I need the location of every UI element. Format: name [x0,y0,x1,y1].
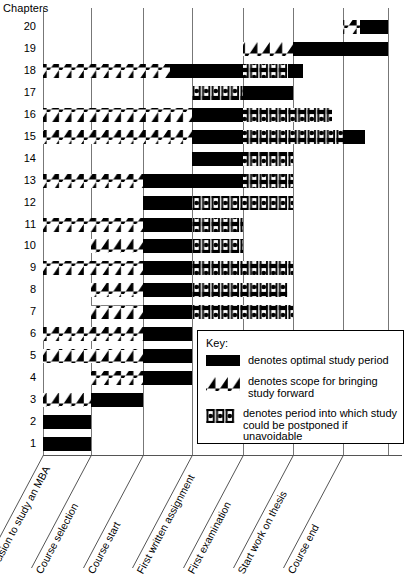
bar-segment-solid [143,349,192,363]
bar-segment-hatch [43,393,91,407]
bar-row [343,20,388,34]
milestone-leader-line [184,455,244,568]
bar-segment-hatch [43,327,143,341]
bar-row [91,283,288,297]
bar-segment-dot [243,64,288,78]
bar-segment-solid [143,371,192,385]
bar-segment-dot [192,86,243,100]
bar-row [192,152,293,166]
bar-segment-dot [192,196,293,210]
bar-row [43,174,293,188]
bar-segment-dot [243,130,343,144]
legend-swatch-dotted [206,409,235,423]
y-axis-tick-chapter-11: 11 [10,218,36,230]
bar-segment-dot [243,108,332,122]
bar-row [43,327,192,341]
y-axis-tick-chapter-1: 1 [10,437,36,449]
bar-segment-solid [293,42,388,56]
y-axis-tick-chapter-14: 14 [10,152,36,164]
y-axis-tick-chapter-12: 12 [10,196,36,208]
bar-segment-hatch [43,218,143,232]
bar-segment-solid [243,86,293,100]
bar-row [143,196,293,210]
bar-segment-hatch [43,174,143,188]
bar-segment-hatch [91,305,143,319]
bar-segment-dot [192,261,293,275]
bar-row [43,64,303,78]
y-axis-tick-chapter-13: 13 [10,174,36,186]
bar-segment-dot [192,239,243,253]
bar-segment-solid [143,196,192,210]
bar-segment-hatch [243,42,293,56]
bar-segment-dot [243,152,293,166]
page-title: Chapters [3,2,48,14]
bar-segment-solid [143,283,192,297]
chart-canvas [0,0,408,584]
legend-swatch-solid [206,355,240,366]
bar-segment-dot [192,283,288,297]
legend-label-forward: denotes scope for bringing study forward [248,376,398,399]
y-axis-tick-chapter-3: 3 [10,393,36,405]
milestone-leader-line [234,455,294,568]
bar-row [243,42,388,56]
y-axis-tick-chapter-5: 5 [10,349,36,361]
legend-label-postponed: denotes period into which study could be… [243,408,399,443]
bar-segment-solid [343,130,365,144]
bar-segment-hatch [343,20,360,34]
y-axis-tick-chapter-4: 4 [10,371,36,383]
y-axis-tick-chapter-17: 17 [10,86,36,98]
bar-segment-solid [91,393,143,407]
bar-row [91,239,243,253]
bar-segment-solid [360,20,388,34]
bar-segment-hatch [91,283,143,297]
milestone-leader-line [84,455,144,568]
bar-row [43,393,143,407]
bar-segment-solid [170,64,243,78]
bar-segment-solid [43,437,91,451]
y-axis-tick-chapter-15: 15 [10,130,36,142]
bar-segment-dot [192,218,243,232]
bar-row [43,261,293,275]
y-axis-tick-chapter-18: 18 [10,64,36,76]
y-axis-tick-chapter-19: 19 [10,42,36,54]
bar-row [43,130,365,144]
bar-segment-solid [143,305,192,319]
legend-box: Key: denotes optimal study period denote… [197,330,404,444]
bar-segment-solid [192,152,243,166]
legend-heading: Key: [206,337,228,349]
milestone-leader-line [284,455,344,568]
bar-row [43,218,243,232]
bar-segment-dot [243,174,293,188]
bar-segment-hatch [91,371,143,385]
bar-row [91,305,293,319]
y-axis-tick-chapter-8: 8 [10,283,36,295]
bar-row [43,415,91,429]
bar-segment-hatch [43,130,192,144]
bar-row [192,86,293,100]
bar-segment-solid [143,261,192,275]
y-axis-tick-chapter-16: 16 [10,108,36,120]
y-axis-tick-chapter-6: 6 [10,327,36,339]
bar-segment-hatch [43,64,170,78]
bar-segment-solid [288,64,303,78]
bar-segment-solid [143,239,192,253]
bar-segment-solid [43,415,91,429]
legend-swatch-hatch [206,377,240,391]
legend-label-optimal: denotes optimal study period [248,355,398,367]
bar-segment-hatch [43,108,192,122]
bar-row [91,371,192,385]
bar-row [43,108,332,122]
gantt-chart: Chapters 2019181716151413121110987654321… [0,0,408,584]
bar-segment-dot [192,305,293,319]
bar-segment-hatch [43,349,143,363]
bar-row [43,349,192,363]
bar-segment-solid [192,130,243,144]
milestone-leader-line [133,455,193,568]
bar-segment-solid [143,327,192,341]
y-axis-tick-chapter-9: 9 [10,261,36,273]
y-axis-tick-chapter-2: 2 [10,415,36,427]
bar-segment-solid [143,174,243,188]
bar-segment-solid [143,218,192,232]
bar-row [43,437,91,451]
y-axis-tick-chapter-20: 20 [10,20,36,32]
